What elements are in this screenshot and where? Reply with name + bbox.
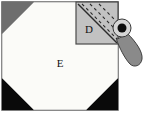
- region-d-label: D: [85, 23, 93, 35]
- geometric-diagram: E D: [0, 0, 155, 120]
- figure-container: E D: [0, 0, 155, 120]
- region-e-label: E: [57, 57, 64, 69]
- knob-pivot-hub[interactable]: [118, 24, 127, 33]
